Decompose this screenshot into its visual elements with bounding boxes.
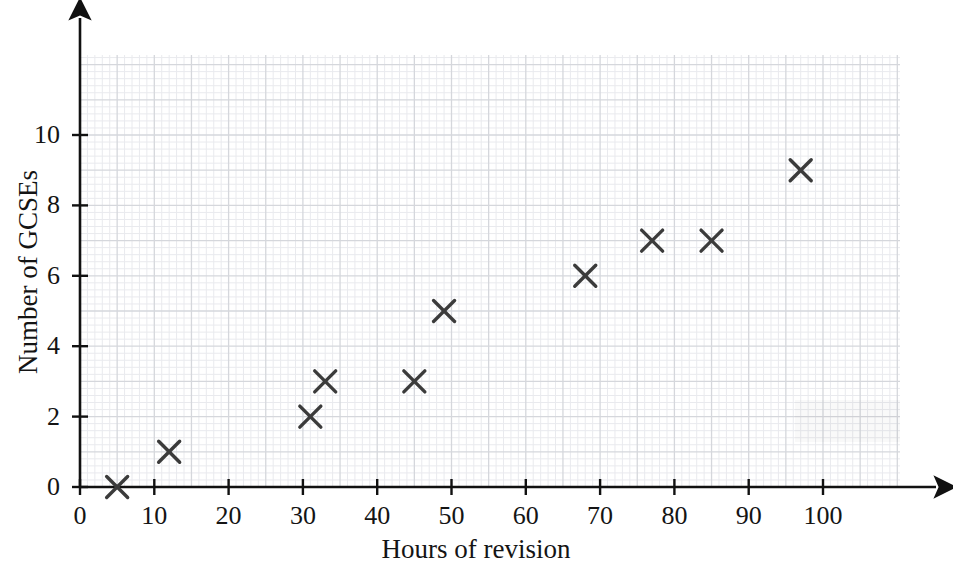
x-axis-title: Hours of revision — [382, 536, 571, 563]
x-tick-label: 50 — [439, 503, 465, 529]
x-tick-label: 40 — [364, 503, 390, 529]
x-tick-label: 20 — [216, 503, 242, 529]
x-tick-label: 10 — [141, 503, 167, 529]
y-axis-title: Number of GCSEs — [15, 170, 42, 374]
plot-canvas: (5, 0)(12, 1)(31, 2)(33, 3)(45, 3)(49, 5… — [0, 0, 953, 571]
x-tick-label: 90 — [736, 503, 762, 529]
x-tick-label: 0 — [74, 503, 87, 529]
x-tick-label: 60 — [513, 503, 539, 529]
scatter-chart: (5, 0)(12, 1)(31, 2)(33, 3)(45, 3)(49, 5… — [0, 0, 953, 571]
x-tick-label: 80 — [661, 503, 687, 529]
x-tick-label: 30 — [290, 503, 316, 529]
grid-background — [80, 55, 900, 487]
scan-shading-artifact — [795, 400, 900, 442]
x-tick-label: 100 — [804, 503, 843, 529]
x-tick-label: 70 — [587, 503, 613, 529]
